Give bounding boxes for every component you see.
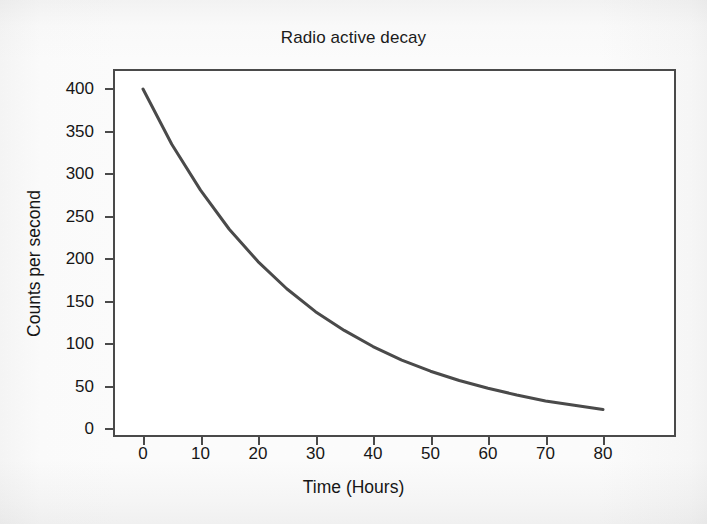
x-tick-label: 70 (523, 444, 569, 464)
chart-title: Radio active decay (0, 28, 707, 48)
x-tick-mark (258, 437, 260, 445)
y-tick-mark (105, 216, 113, 218)
y-tick-label: 0 (48, 419, 94, 439)
y-tick-mark (105, 301, 113, 303)
x-tick-label: 20 (235, 444, 281, 464)
decay-curve-svg (113, 69, 676, 437)
y-tick-label: 100 (48, 334, 94, 354)
y-tick-mark (105, 173, 113, 175)
x-tick-label: 0 (120, 444, 166, 464)
x-tick-label: 30 (293, 444, 339, 464)
chart-page: Radio active decay 050100150200250300350… (0, 0, 707, 524)
y-axis-title: Counts per second (24, 144, 45, 384)
y-tick-label: 150 (48, 292, 94, 312)
x-tick-label: 40 (350, 444, 396, 464)
x-tick-mark (488, 437, 490, 445)
x-tick-mark (603, 437, 605, 445)
y-axis-tick-labels: 050100150200250300350400 (48, 0, 94, 524)
x-tick-label: 60 (465, 444, 511, 464)
y-tick-label: 250 (48, 207, 94, 227)
x-tick-label: 10 (178, 444, 224, 464)
y-tick-mark (105, 88, 113, 90)
y-tick-label: 50 (48, 377, 94, 397)
x-tick-mark (373, 437, 375, 445)
x-tick-mark (431, 437, 433, 445)
x-tick-mark (143, 437, 145, 445)
y-tick-label: 400 (48, 79, 94, 99)
y-tick-mark (105, 258, 113, 260)
y-tick-mark (105, 343, 113, 345)
y-tick-mark (105, 386, 113, 388)
decay-curve-line (143, 89, 603, 409)
x-tick-mark (546, 437, 548, 445)
x-tick-label: 50 (408, 444, 454, 464)
x-tick-mark (316, 437, 318, 445)
y-tick-mark (105, 131, 113, 133)
y-tick-label: 350 (48, 122, 94, 142)
y-tick-mark (105, 428, 113, 430)
y-tick-label: 200 (48, 249, 94, 269)
x-axis-title: Time (Hours) (0, 477, 707, 498)
x-tick-mark (201, 437, 203, 445)
x-tick-label: 80 (580, 444, 626, 464)
y-tick-label: 300 (48, 164, 94, 184)
